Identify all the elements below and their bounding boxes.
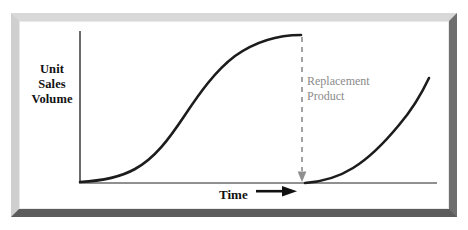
y-axis-label-line-3: Volume	[26, 92, 78, 107]
replacement-leader-arrowhead-icon	[298, 172, 307, 183]
right-arrow-icon	[256, 185, 298, 201]
figure-root: Unit Sales Volume Time Replacement Produ…	[0, 0, 468, 230]
figure-frame-bevel-top-right	[449, 13, 457, 21]
annotation-line-2: Product	[307, 89, 370, 104]
y-axis-label-line-1: Unit	[26, 62, 78, 77]
chart-plot-area	[19, 21, 449, 209]
y-axis-label-line-2: Sales	[26, 77, 78, 92]
x-axis-label-text: Time	[219, 187, 248, 202]
annotation-line-1: Replacement	[307, 74, 370, 89]
annotation-replacement-product: Replacement Product	[307, 74, 370, 103]
y-axis-label: Unit Sales Volume	[26, 62, 78, 107]
x-axis-label: Time	[219, 185, 298, 202]
figure-frame-bevel-bottom-left	[11, 209, 19, 217]
curve-original-product	[80, 35, 301, 182]
